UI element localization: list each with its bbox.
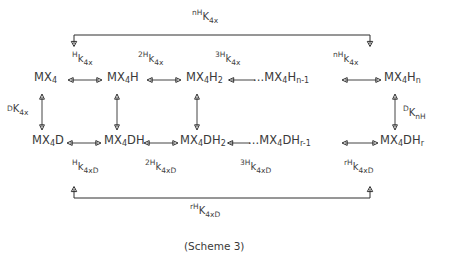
constant-bottom-step-3-pre: 3H [240, 158, 250, 167]
arrow-bottom-1 [66, 139, 102, 147]
constant-bottom-step-1-sub: 4xD [83, 166, 98, 175]
arrow-vertical-2 [113, 93, 121, 131]
species-mx4d: MX4D [32, 135, 64, 148]
constant-outer-bottom-sub: 4xD [205, 210, 220, 219]
constant-bottom-step-2-pre: 2H [145, 158, 155, 167]
constant-top-step-4-pre: nH [333, 50, 343, 59]
arrow-vertical-1 [38, 93, 46, 131]
outer-top-bracket [72, 33, 372, 47]
constant-outer-bottom: rHK4xD [190, 203, 220, 219]
constant-top-step-1: Hk4x [72, 51, 93, 67]
constant-top-step-1-sub: 4x [83, 58, 92, 67]
constant-bottom-step-2: 2Hk4xD [145, 159, 176, 175]
constant-top-step-4: nHk4x [333, 51, 358, 67]
constant-top-step-4-sub: 4x [349, 58, 358, 67]
species-mx4dh: MX4DH [104, 135, 145, 148]
constant-outer-bottom-pre: rH [190, 202, 199, 211]
constant-top-step-3: 3Hk4x [215, 51, 240, 67]
constant-vertical-right: DKnH [403, 105, 426, 121]
arrow-top-2 [146, 76, 182, 84]
species-mx4dhr: MX4DHr [380, 135, 424, 148]
constant-top-step-2-sub: 4x [154, 58, 163, 67]
arrow-vertical-4 [391, 93, 399, 131]
arrow-bottom-4 [341, 139, 379, 147]
species-mx4h: MX4H [107, 72, 139, 85]
constant-outer-top-sub: 4x [209, 16, 218, 25]
species-mx4hn1: ...MX4Hn-1 [253, 72, 309, 85]
constant-outer-top: nHK4x [192, 9, 218, 25]
constant-bottom-step-4-sub: 4xD [359, 166, 374, 175]
outer-bottom-bracket-svg [72, 186, 372, 200]
constant-vertical-left: DK4x [7, 104, 29, 117]
constant-bottom-step-1: Hk4xD [72, 159, 98, 175]
constant-bottom-step-3-sub: 4xD [256, 166, 271, 175]
arrow-top-1 [67, 76, 103, 84]
constant-top-step-2-pre: 2H [138, 50, 148, 59]
constant-bottom-step-4: rHk4xD [344, 159, 374, 175]
outer-bottom-bracket [72, 186, 372, 200]
constant-top-step-3-pre: 3H [215, 50, 225, 59]
species-mx4hn: MX4Hn [384, 72, 421, 85]
arrow-vertical-3 [193, 93, 201, 131]
scheme-diagram: nHK4x Hk4x 2Hk4x 3Hk4x nHk4x MX4 MX4H MX… [0, 0, 450, 267]
constant-vertical-right-sub: nH [415, 112, 425, 121]
species-mx4dh2: MX4DH2 [180, 135, 226, 148]
outer-top-bracket-svg [72, 33, 372, 47]
species-mx4h2: MX4H2 [186, 72, 223, 85]
constant-bottom-step-4-pre: rH [344, 158, 353, 167]
arrow-top-3 [228, 76, 256, 84]
arrow-bottom-3 [227, 139, 251, 147]
species-mx4: MX4 [34, 72, 57, 85]
constant-bottom-step-2-sub: 4xD [161, 166, 176, 175]
scheme-caption: (Scheme 3) [184, 240, 244, 252]
constant-top-step-3-sub: 4x [231, 58, 240, 67]
constant-bottom-step-3: 3Hk4xD [240, 159, 271, 175]
arrow-bottom-2 [143, 139, 179, 147]
constant-vertical-left-sub: 4x [19, 108, 28, 117]
arrow-top-4 [341, 76, 382, 84]
constant-outer-top-pre: nH [192, 8, 202, 17]
species-mx4dhr1: ...MX4DHr-1 [248, 135, 311, 148]
constant-top-step-2: 2Hk4x [138, 51, 163, 67]
